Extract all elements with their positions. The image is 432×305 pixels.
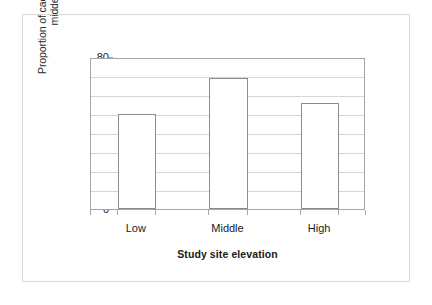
x-category-label-low: Low: [90, 222, 182, 235]
y-axis-title: Proportion of cached cones in middens: [31, 0, 65, 91]
figure-frame: Proportion of cached cones in middens 01…: [22, 14, 410, 282]
x-tick-mark: [155, 210, 156, 215]
bar-high: [301, 103, 340, 209]
plot-area: [90, 58, 365, 210]
x-category-label-middle: Middle: [182, 222, 274, 235]
bar-middle: [209, 78, 248, 209]
x-tick-mark: [365, 210, 366, 215]
x-tick-mark: [300, 210, 301, 215]
x-tick-mark: [338, 210, 339, 215]
x-tick-mark: [117, 210, 118, 215]
bar-low: [118, 114, 157, 209]
x-category-label-high: High: [273, 222, 365, 235]
x-tick-mark: [90, 210, 91, 215]
x-axis-title: Study site elevation: [90, 248, 365, 260]
x-tick-mark: [247, 210, 248, 215]
x-tick-mark: [208, 210, 209, 215]
